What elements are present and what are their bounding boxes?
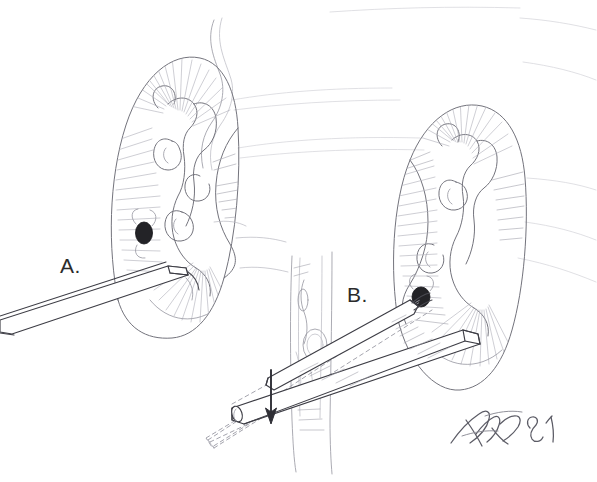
illustration-canvas: .ln { fill:none; stroke:#73737c; stroke-… xyxy=(0,0,597,482)
panel-label-a: A. xyxy=(60,255,81,276)
nephroscope-sheath-a xyxy=(0,262,199,335)
ureter-and-vessel xyxy=(201,18,232,170)
nephroscope-sheath-b xyxy=(206,293,480,448)
vertebral-column xyxy=(214,221,332,474)
left-kidney xyxy=(111,57,239,338)
rib-lines xyxy=(232,7,596,282)
artist-signature xyxy=(451,411,553,446)
signature-year xyxy=(528,416,554,442)
panel-label-b: B. xyxy=(347,284,368,305)
medical-illustration-figure: .ln { fill:none; stroke:#73737c; stroke-… xyxy=(0,0,597,482)
